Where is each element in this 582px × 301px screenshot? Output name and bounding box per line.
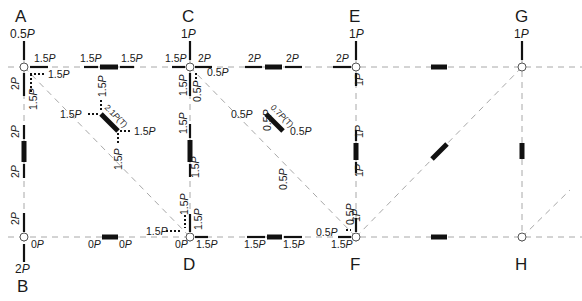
diagonal-line-h-right — [522, 190, 570, 237]
diagonal-cf: 0.7P(T) 0.5P 0.5P 0.5P 0.5P — [231, 102, 312, 190]
svg-text:0.5P: 0.5P — [316, 226, 338, 238]
member-ef: 1P 1P — [353, 125, 365, 177]
svg-text:1.5P: 1.5P — [189, 156, 201, 178]
node-label-g: G — [515, 7, 528, 26]
svg-text:2P: 2P — [248, 52, 261, 64]
truss-centerlines — [8, 60, 582, 245]
node-label-d: D — [183, 255, 195, 274]
member-df: 1.5P 1.5P — [244, 237, 305, 250]
pin-d — [186, 233, 194, 241]
node-a-fbd: 1.5P 1.5P 2P 1.5P — [9, 52, 70, 110]
member-bd: 0P 0P — [88, 237, 132, 250]
svg-text:1.5P: 1.5P — [27, 88, 39, 110]
member-ab: 2P 2P — [9, 125, 24, 178]
svg-text:2P: 2P — [9, 212, 21, 225]
svg-text:1.5P: 1.5P — [146, 225, 168, 237]
svg-text:1.5P: 1.5P — [134, 125, 156, 137]
svg-text:0P: 0P — [88, 238, 101, 250]
load-label-e: 1P — [349, 27, 364, 41]
node-label-b: B — [17, 277, 28, 296]
svg-text:1.5P: 1.5P — [244, 238, 266, 250]
node-c-fbd: 1.5P 2P 0.5P 1.5P 0.5P — [165, 52, 229, 102]
svg-text:1.5P: 1.5P — [121, 52, 143, 64]
svg-text:1P: 1P — [353, 125, 365, 138]
diagonal-ad: 2.1P(T) 1.5P 1.5P 1.5P 1.5P — [60, 75, 156, 170]
node-label-f: F — [350, 255, 360, 274]
svg-text:1.5P: 1.5P — [112, 148, 124, 170]
pin-a — [20, 63, 28, 71]
svg-text:0.5P: 0.5P — [191, 80, 203, 102]
svg-text:0P: 0P — [119, 238, 132, 250]
svg-text:0.5P: 0.5P — [231, 108, 253, 120]
svg-text:1.5P: 1.5P — [331, 238, 353, 250]
pin-f — [352, 233, 360, 241]
pin-h — [518, 233, 526, 241]
svg-text:1.5P: 1.5P — [60, 108, 82, 120]
svg-text:1.5P: 1.5P — [48, 68, 70, 80]
member-cd: 1.5P 1.5P — [177, 112, 201, 178]
pin-g — [518, 63, 526, 71]
member-ce: 2P 2P — [245, 52, 302, 67]
svg-text:1.5P: 1.5P — [80, 52, 102, 64]
member-ac: 1.5P 1.5P — [80, 52, 143, 67]
diagonal-line-cf — [190, 67, 356, 237]
node-label-h: H — [515, 255, 527, 274]
load-label-g: 1P — [514, 27, 529, 41]
svg-text:1.5P: 1.5P — [177, 112, 189, 134]
svg-text:2P: 2P — [9, 125, 21, 138]
load-label-c: 1P — [181, 27, 196, 41]
pin-b — [20, 233, 28, 241]
svg-text:1P: 1P — [350, 209, 362, 222]
node-f-fbd: 0.5P 0.5P 1P 1.5P — [316, 203, 362, 250]
svg-text:0.5P: 0.5P — [261, 109, 273, 131]
node-d-fbd: 1.5P 1.5P 1.5P 0P 1.5P — [146, 193, 218, 250]
node-label-e: E — [349, 7, 360, 26]
svg-text:1.5P: 1.5P — [196, 238, 218, 250]
svg-text:1.5P: 1.5P — [34, 52, 56, 64]
svg-text:2P: 2P — [9, 77, 21, 90]
svg-text:0.5P: 0.5P — [207, 66, 229, 78]
truss-diagram: A 0.5P C 1P E 1P G 1P 2P B D F H 1.5P 1.… — [0, 0, 582, 301]
pin-c — [186, 63, 194, 71]
node-b-fbd: 2P 0P — [9, 212, 44, 250]
pin-e — [352, 63, 360, 71]
svg-text:1.5P: 1.5P — [177, 74, 189, 96]
svg-text:1P: 1P — [353, 73, 365, 86]
svg-text:1.5P: 1.5P — [165, 52, 187, 64]
node-label-a: A — [15, 7, 27, 26]
diagonal-fg — [432, 144, 447, 159]
svg-text:0P: 0P — [175, 238, 188, 250]
svg-text:0P: 0P — [31, 238, 44, 250]
svg-text:2P: 2P — [198, 52, 211, 64]
svg-text:1.5P: 1.5P — [192, 208, 204, 230]
svg-text:0.5P: 0.5P — [290, 125, 312, 137]
svg-text:2.1P(T): 2.1P(T) — [103, 102, 130, 129]
svg-text:2P: 2P — [286, 52, 299, 64]
svg-text:0.5P: 0.5P — [277, 168, 289, 190]
svg-text:1.5P: 1.5P — [283, 238, 305, 250]
svg-text:2P: 2P — [336, 52, 349, 64]
svg-text:1P: 1P — [353, 164, 365, 177]
load-label-a: 0.5P — [10, 27, 35, 41]
reaction-label-b: 2P — [15, 262, 30, 276]
svg-text:1.5P: 1.5P — [96, 75, 108, 97]
svg-text:1.5P: 1.5P — [178, 193, 190, 215]
node-label-c: C — [182, 7, 194, 26]
svg-text:2P: 2P — [9, 165, 21, 178]
node-e-fbd: 2P 1P — [333, 52, 365, 86]
